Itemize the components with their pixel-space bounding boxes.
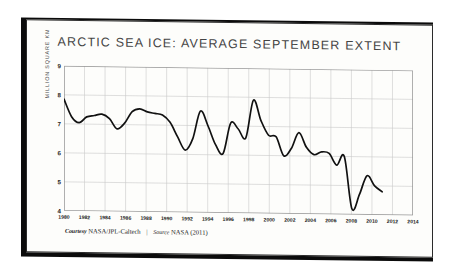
source-value: NASA (2011) [171, 228, 208, 235]
y-tick-label: 8 [47, 91, 61, 98]
courtesy-value: NASA/JPL-Caltech [88, 227, 140, 235]
x-tick-label: 2014 [400, 218, 426, 224]
chart-footer: Courtesy NASA/JPL-Caltech | Source NASA … [65, 227, 208, 236]
plot-area: 987654 198019821984198619881990199219941… [64, 66, 413, 216]
y-tick-label: 5 [47, 178, 61, 185]
framed-chart-card: ARCTIC SEA ICE: AVERAGE SEPTEMBER EXTENT… [0, 0, 451, 276]
y-tick-label: 9 [47, 62, 61, 69]
courtesy-label: Courtesy [65, 228, 87, 234]
data-series-line [64, 97, 382, 210]
chart-card: ARCTIC SEA ICE: AVERAGE SEPTEMBER EXTENT… [26, 19, 433, 257]
footer-separator: | [142, 228, 151, 235]
source-label: Source [153, 229, 169, 235]
line-chart-svg [64, 66, 413, 216]
y-tick-label: 6 [47, 149, 61, 156]
y-tick-label: 7 [47, 120, 61, 127]
chart-title: ARCTIC SEA ICE: AVERAGE SEPTEMBER EXTENT [27, 34, 432, 53]
